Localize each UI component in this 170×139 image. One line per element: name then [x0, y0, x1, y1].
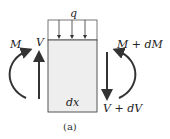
moment-arrow-right — [118, 51, 135, 98]
beam-element-diagram: q dx V M V + dV M + dM (a) — [0, 0, 170, 139]
moment-arrow-left — [10, 51, 27, 98]
element-length-label: dx — [66, 96, 80, 109]
shear-right-label: V + dV — [103, 102, 143, 115]
load-label: q — [70, 7, 77, 20]
figure-caption: (a) — [63, 121, 77, 132]
moment-left-label: M — [9, 38, 22, 51]
moment-right-label: M + dM — [116, 38, 164, 51]
shear-left-label: V — [36, 36, 45, 49]
distributed-load — [48, 20, 97, 40]
